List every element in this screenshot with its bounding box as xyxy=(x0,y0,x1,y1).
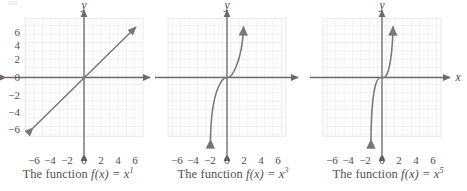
plot-area-linear: 6 4 2 0 −2 −4 −6 −6 −4 −2 0 2 4 6 xyxy=(0,0,156,168)
figure-three-odd-power-functions: 6 4 2 0 −2 −4 −6 −6 −4 −2 0 2 4 6 xyxy=(0,0,467,191)
svg-text:0: 0 xyxy=(379,154,385,166)
svg-text:6: 6 xyxy=(15,26,21,38)
svg-text:4: 4 xyxy=(15,39,21,51)
x-tick-labels-linear: −6 −4 −2 0 2 4 6 xyxy=(28,154,138,166)
panel-cubic: −6 −4 −2 0 2 4 6 y The function f(x) = x… xyxy=(155,0,311,191)
svg-text:2: 2 xyxy=(396,154,402,166)
svg-text:−4: −4 xyxy=(342,154,354,166)
caption-quintic-prefix: The function xyxy=(332,167,401,181)
x-tick-labels-cubic: −6 −4 −2 0 2 4 6 xyxy=(171,154,281,166)
caption-linear-function: f(x) = x xyxy=(91,167,129,181)
svg-text:2: 2 xyxy=(98,154,104,166)
svg-text:2: 2 xyxy=(15,53,21,65)
caption-cubic-function: f(x) = x xyxy=(246,167,284,181)
y-axis-label-quintic: y xyxy=(378,0,385,12)
svg-text:−4: −4 xyxy=(44,154,56,166)
svg-text:−6: −6 xyxy=(28,154,40,166)
y-tick-labels-linear: 6 4 2 0 −2 −4 −6 xyxy=(8,26,20,135)
svg-text:6: 6 xyxy=(132,154,138,166)
plot-area-cubic: −6 −4 −2 0 2 4 6 y xyxy=(155,0,311,168)
caption-cubic: The function f(x) = x3 xyxy=(155,166,311,182)
panel-linear: 6 4 2 0 −2 −4 −6 −6 −4 −2 0 2 4 6 xyxy=(0,0,156,191)
caption-cubic-exponent: 3 xyxy=(284,166,288,175)
svg-text:0: 0 xyxy=(224,154,230,166)
panel-quintic: −6 −4 −2 0 2 4 6 y x The function f(x) =… xyxy=(310,0,466,191)
caption-quintic: The function f(x) = x5 xyxy=(310,166,466,182)
svg-text:−2: −2 xyxy=(61,154,73,166)
caption-quintic-function: f(x) = x xyxy=(401,167,439,181)
svg-text:2: 2 xyxy=(241,154,247,166)
y-axis-label-cubic: y xyxy=(223,0,230,12)
svg-text:6: 6 xyxy=(430,154,436,166)
svg-text:0: 0 xyxy=(15,71,21,83)
svg-text:−4: −4 xyxy=(187,154,199,166)
svg-text:−4: −4 xyxy=(8,106,20,118)
svg-text:0: 0 xyxy=(81,154,87,166)
caption-linear-exponent: 1 xyxy=(129,166,133,175)
caption-cubic-prefix: The function xyxy=(177,167,246,181)
x-tick-labels-quintic: −6 −4 −2 0 2 4 6 xyxy=(326,154,436,166)
svg-text:−2: −2 xyxy=(8,89,20,101)
svg-text:4: 4 xyxy=(413,154,419,166)
plot-area-quintic: −6 −4 −2 0 2 4 6 y x xyxy=(310,0,466,168)
svg-text:−2: −2 xyxy=(204,154,216,166)
y-axis-label-linear: y xyxy=(80,0,87,12)
svg-text:4: 4 xyxy=(115,154,121,166)
svg-text:−6: −6 xyxy=(8,123,20,135)
caption-linear: The function f(x) = x1 xyxy=(0,166,156,182)
svg-text:−6: −6 xyxy=(326,154,338,166)
caption-linear-prefix: The function xyxy=(22,167,91,181)
x-axis-label-quintic: x xyxy=(454,71,461,83)
svg-text:6: 6 xyxy=(275,154,281,166)
svg-text:4: 4 xyxy=(258,154,264,166)
svg-text:−2: −2 xyxy=(359,154,371,166)
caption-quintic-exponent: 5 xyxy=(439,166,443,175)
svg-text:−6: −6 xyxy=(171,154,183,166)
